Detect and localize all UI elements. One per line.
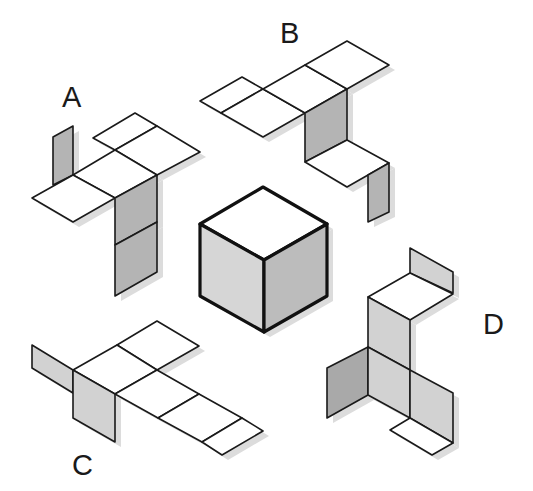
net-c-face (32, 345, 73, 393)
net-b (200, 41, 389, 222)
label-a: A (62, 81, 82, 113)
net-d-face (327, 347, 368, 418)
cube-nets-diagram: A B C D (0, 0, 533, 491)
net-c (32, 321, 263, 455)
net-a (32, 113, 200, 296)
label-c: C (72, 449, 93, 481)
net-d (327, 248, 453, 455)
label-d: D (483, 308, 504, 340)
label-b: B (280, 17, 299, 49)
